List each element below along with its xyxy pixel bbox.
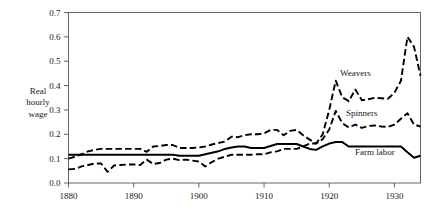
x-tick-label: 1910 (255, 191, 274, 201)
y-axis-label-line: wage (29, 109, 48, 119)
x-tick-label: 1880 (60, 191, 79, 201)
series-annotation-weavers: Weavers (340, 68, 371, 78)
line-chart: 0.00.10.20.30.40.50.60.7 188018901900191… (0, 0, 438, 217)
y-tick-label: 0.5 (49, 56, 61, 66)
y-axis-label-line: hourly (26, 97, 50, 107)
y-tick-label: 0.7 (49, 8, 61, 18)
y-axis-label-line: Real (30, 86, 47, 96)
y-tick-label: 0.3 (49, 105, 61, 115)
series-annotation-spinners: Spinners (346, 108, 378, 118)
x-tick-label: 1890 (125, 191, 144, 201)
x-tick-label: 1930 (385, 191, 404, 201)
x-tick-label: 1900 (190, 191, 209, 201)
series-annotation-farm-labor: Farm labor (355, 147, 395, 157)
x-tick-label: 1920 (320, 191, 339, 201)
y-tick-label: 0.2 (49, 129, 60, 139)
y-tick-label: 0.4 (49, 81, 61, 91)
y-tick-label: 0.1 (49, 154, 60, 164)
y-tick-label: 0.6 (49, 32, 61, 42)
y-tick-label: 0.0 (49, 178, 61, 188)
chart-figure: 0.00.10.20.30.40.50.60.7 188018901900191… (0, 0, 438, 217)
